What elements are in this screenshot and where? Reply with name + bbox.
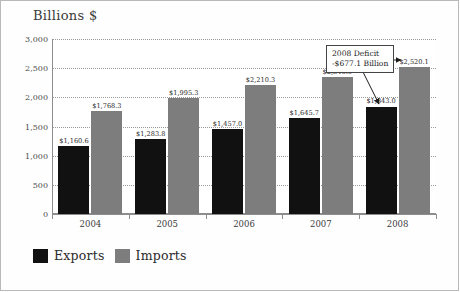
x-axis-tick — [436, 214, 437, 219]
bar-value-label: $2,520.1 — [391, 58, 438, 66]
exports-bar-2006 — [212, 129, 243, 214]
bar-value-label: $2,210.3 — [237, 76, 284, 84]
imports-swatch-icon — [115, 249, 130, 263]
chart-legend: Exports Imports — [33, 248, 187, 263]
y-tick-label: 2,000 — [4, 93, 48, 102]
y-tick-label: 3,000 — [4, 35, 48, 44]
imports-bar-2004 — [91, 111, 122, 214]
gridline — [52, 39, 436, 40]
legend-item-exports: Exports — [33, 248, 105, 263]
y-axis-line — [52, 39, 53, 214]
x-tick-label-2008: 2008 — [359, 219, 436, 229]
imports-bar-2006 — [245, 85, 276, 214]
gridline — [52, 214, 436, 215]
annotation-line-2: -$677.1 Billion — [332, 59, 388, 69]
imports-bar-2008 — [399, 67, 430, 214]
bar-value-label: $1,843.0 — [358, 97, 405, 105]
exports-bar-2004 — [58, 146, 89, 214]
chart-title: Billions $ — [33, 8, 97, 23]
chart-figure: Billions $ 05001,0001,5002,0002,5003,000… — [0, 0, 460, 292]
legend-item-imports: Imports — [115, 248, 187, 263]
deficit-annotation-callout: 2008 Deficit -$677.1 Billion — [326, 45, 394, 73]
y-tick-label: 1,500 — [4, 122, 48, 131]
x-tick-label-2006: 2006 — [206, 219, 283, 229]
x-tick-label-2007: 2007 — [282, 219, 359, 229]
exports-swatch-icon — [33, 249, 48, 263]
bar-value-label: $1,768.3 — [83, 102, 130, 110]
y-tick-label: 0 — [4, 210, 48, 219]
bar-value-label: $1,160.6 — [50, 137, 97, 145]
imports-bar-2005 — [168, 98, 199, 214]
imports-bar-2007 — [322, 77, 353, 214]
exports-bar-2005 — [135, 139, 166, 214]
y-tick-label: 500 — [4, 180, 48, 189]
bar-value-label: $1,995.3 — [160, 89, 207, 97]
exports-bar-2007 — [289, 118, 320, 214]
exports-bar-2008 — [366, 107, 397, 215]
bar-value-label: $1,457.0 — [204, 120, 251, 128]
y-tick-label: 2,500 — [4, 64, 48, 73]
x-tick-label-2004: 2004 — [52, 219, 129, 229]
bar-value-label: $1,645.7 — [281, 109, 328, 117]
legend-label-exports: Exports — [54, 248, 105, 263]
y-tick-label: 1,000 — [4, 151, 48, 160]
x-tick-label-2005: 2005 — [129, 219, 206, 229]
annotation-line-1: 2008 Deficit — [332, 49, 388, 59]
bar-value-label: $1,283.8 — [127, 130, 174, 138]
legend-label-imports: Imports — [136, 248, 187, 263]
